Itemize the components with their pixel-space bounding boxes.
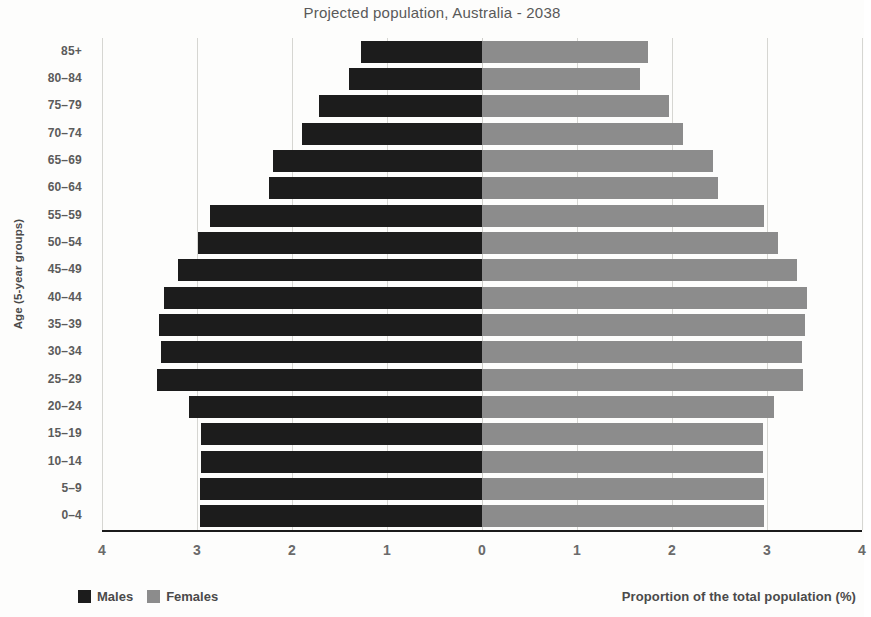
y-axis-tick-label: 75–79 [0, 98, 82, 112]
bar-female [482, 396, 774, 418]
bar-female [482, 505, 764, 527]
bar-row [102, 451, 862, 473]
bar-row [102, 205, 862, 227]
legend-item-females: Females [147, 589, 218, 604]
bar-male [201, 423, 482, 445]
bar-female [482, 232, 778, 254]
bar-male [269, 177, 482, 199]
y-axis-tick-label: 45–49 [0, 262, 82, 276]
bar-male [200, 478, 482, 500]
x-axis-tick-label: 4 [82, 542, 122, 558]
bar-male [189, 396, 482, 418]
legend-swatch-males-icon [78, 590, 91, 603]
legend-swatch-females-icon [147, 590, 160, 603]
bar-row [102, 423, 862, 445]
y-axis-tick-label: 50–54 [0, 235, 82, 249]
bar-row [102, 150, 862, 172]
bar-male [319, 95, 482, 117]
legend-label-females: Females [166, 589, 218, 604]
y-axis-tick-label: 20–24 [0, 399, 82, 413]
bar-row [102, 478, 862, 500]
y-axis-tick-label: 15–19 [0, 426, 82, 440]
bar-female [482, 95, 669, 117]
y-axis-tick-label: 80–84 [0, 71, 82, 85]
bar-female [482, 41, 648, 63]
bar-male [161, 341, 482, 363]
y-axis-tick-label: 85+ [0, 44, 82, 58]
bar-row [102, 341, 862, 363]
bar-row [102, 396, 862, 418]
x-axis-tick-label: 1 [557, 542, 597, 558]
bar-female [482, 341, 802, 363]
y-axis-tick-label: 30–34 [0, 344, 82, 358]
legend-label-males: Males [97, 589, 133, 604]
bar-male [302, 123, 483, 145]
bar-female [482, 205, 764, 227]
bar-row [102, 232, 862, 254]
bar-female [482, 287, 807, 309]
x-axis-tick-label: 0 [462, 542, 502, 558]
bar-male [361, 41, 482, 63]
bar-female [482, 259, 797, 281]
x-axis-line [102, 530, 862, 532]
bar-female [482, 123, 683, 145]
y-axis-tick-label: 70–74 [0, 126, 82, 140]
y-axis-tick-label: 55–59 [0, 208, 82, 222]
gridline [862, 38, 863, 530]
bar-female [482, 314, 805, 336]
x-axis-tick-label: 2 [272, 542, 312, 558]
bar-male [157, 369, 482, 391]
bar-row [102, 177, 862, 199]
plot-area [102, 38, 862, 530]
x-axis-tick-label: 3 [177, 542, 217, 558]
bar-female [482, 423, 763, 445]
bar-male [200, 505, 482, 527]
bar-female [482, 451, 763, 473]
bar-male [164, 287, 482, 309]
bar-female [482, 177, 718, 199]
bar-row [102, 314, 862, 336]
x-axis-title: Proportion of the total population (%) [622, 589, 856, 604]
legend-item-males: Males [78, 589, 133, 604]
bar-row [102, 259, 862, 281]
x-axis-tick-label: 4 [842, 542, 871, 558]
bar-row [102, 287, 862, 309]
y-axis-tick-label: 10–14 [0, 454, 82, 468]
bar-male [201, 451, 482, 473]
x-axis-tick-label: 2 [652, 542, 692, 558]
y-axis-tick-label: 65–69 [0, 153, 82, 167]
y-axis-tick-label: 60–64 [0, 180, 82, 194]
bar-male [178, 259, 482, 281]
y-axis-tick-label: 35–39 [0, 317, 82, 331]
bar-row [102, 41, 862, 63]
bar-female [482, 369, 803, 391]
y-axis-tick-label: 25–29 [0, 372, 82, 386]
bar-female [482, 478, 764, 500]
y-axis-tick-label: 0–4 [0, 508, 82, 522]
x-axis-tick-label: 1 [367, 542, 407, 558]
bar-row [102, 123, 862, 145]
bar-male [210, 205, 482, 227]
chart-legend: Males Females [78, 589, 218, 604]
bar-male [349, 68, 482, 90]
y-axis-tick-label: 40–44 [0, 290, 82, 304]
bar-row [102, 95, 862, 117]
bar-female [482, 150, 713, 172]
y-axis-tick-label: 5–9 [0, 481, 82, 495]
bar-male [273, 150, 482, 172]
bar-row [102, 68, 862, 90]
bar-male [159, 314, 482, 336]
bar-male [198, 232, 482, 254]
bar-female [482, 68, 640, 90]
bar-row [102, 505, 862, 527]
bar-row [102, 369, 862, 391]
chart-title: Projected population, Australia - 2038 [0, 4, 864, 21]
x-axis-tick-label: 3 [747, 542, 787, 558]
